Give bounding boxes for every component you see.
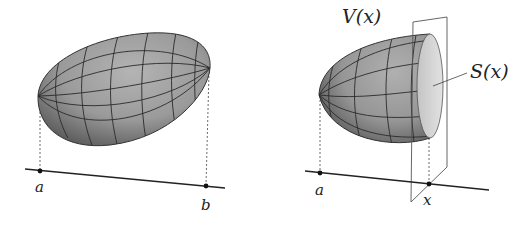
label-a-left: a [35,180,44,195]
point-b [204,184,209,189]
right-figure [305,17,489,202]
point-a-left [38,169,43,174]
label-b: b [201,198,211,213]
projection-b [206,72,209,186]
left-figure [25,32,225,188]
diagram-svg [0,0,512,226]
point-a-right [318,171,323,176]
point-x [427,182,432,187]
cross-section-face [417,34,443,138]
axis-line-left [25,169,225,188]
label-x: x [423,193,431,208]
axis-line-right [305,171,489,190]
diagram-canvas: a b a x V(x) S(x) [0,0,512,226]
label-a-right: a [315,183,324,198]
label-volume: V(x) [342,7,381,26]
label-section: S(x) [470,62,509,81]
